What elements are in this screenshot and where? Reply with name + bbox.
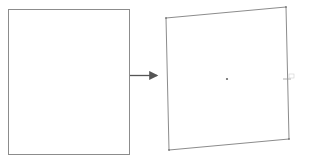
corner-point xyxy=(288,138,290,140)
source-rectangle xyxy=(9,10,130,155)
corner-point xyxy=(165,17,167,19)
diagram-canvas xyxy=(0,0,312,167)
corner-point xyxy=(168,149,170,151)
edge-marker xyxy=(283,74,294,79)
corner-point xyxy=(285,6,287,8)
center-point xyxy=(226,78,228,80)
